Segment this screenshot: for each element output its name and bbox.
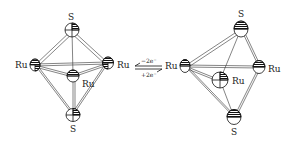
oxidation-label: −2e⁻	[141, 58, 157, 64]
left-label-Ru-left: Ru	[15, 61, 28, 70]
left-atom-Ru3	[67, 70, 79, 82]
left-atom-S1	[65, 23, 79, 37]
right-atom-S1	[234, 21, 248, 37]
right-label-S-top: S	[238, 10, 244, 19]
right-atom-Ru3	[212, 72, 228, 88]
right-label-S-bottom: S	[231, 128, 237, 137]
right-atom-S2	[227, 110, 241, 125]
left-label-Ru-right: Ru	[117, 61, 130, 70]
right-label-Ru-center: Ru	[232, 77, 245, 86]
right-atom-Ru2	[253, 61, 265, 74]
left-label-S-bottom: S	[70, 125, 76, 134]
left-label-S-top: S	[68, 13, 74, 22]
left-atom-S2	[66, 109, 80, 122]
reduction-label: +2e⁻	[141, 72, 157, 78]
right-label-Ru-right: Ru	[268, 65, 281, 74]
right-atom-Ru1	[180, 60, 190, 73]
redox-diagram: S Ru Ru Ru S −2e⁻ +2e⁻ S Ru Ru Ru S	[0, 0, 293, 145]
left-atom-Ru1	[30, 59, 40, 71]
left-label-Ru-center: Ru	[82, 80, 95, 89]
right-label-Ru-left: Ru	[165, 62, 178, 71]
left-atom-Ru2	[103, 57, 114, 69]
